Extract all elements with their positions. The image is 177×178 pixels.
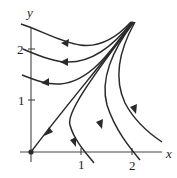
arrow-inner-right xyxy=(70,137,76,147)
x-axis-label: x xyxy=(165,146,172,161)
y-tick-label-1: 1 xyxy=(18,93,25,108)
trajectory-middle-right xyxy=(105,22,140,160)
trajectory-outer-right xyxy=(119,22,162,142)
y-axis-label: y xyxy=(25,5,33,20)
phase-portrait: y x 2 1 1 2 xyxy=(0,0,177,178)
x-tick-label-1: 1 xyxy=(78,157,85,172)
x-tick-label-2: 2 xyxy=(129,158,136,173)
arrow-middle-right xyxy=(96,119,103,129)
trajectory-mid-left xyxy=(23,22,132,62)
arrow-separatrix xyxy=(44,127,53,136)
arrow-mid-left xyxy=(60,58,68,66)
y-tick-label-2: 2 xyxy=(17,42,24,57)
equilibrium-point xyxy=(28,149,33,154)
